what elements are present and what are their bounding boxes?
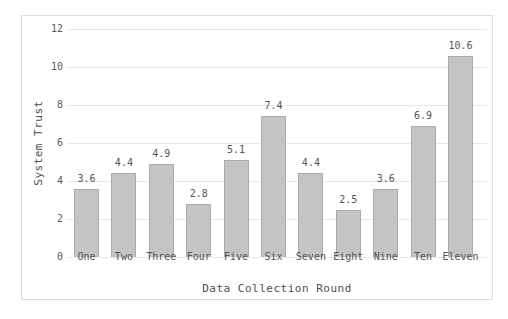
y-tick-label-6: 6 <box>33 136 63 150</box>
y-tick-label-2: 2 <box>33 212 63 226</box>
y-tick-label-8: 8 <box>33 98 63 112</box>
plot-area: 3.64.44.92.85.17.44.42.53.66.910.6 <box>67 29 487 257</box>
value-label-ten: 6.9 <box>401 110 445 122</box>
value-label-one: 3.6 <box>65 173 109 185</box>
value-label-six: 7.4 <box>252 100 296 112</box>
bar-eleven <box>448 56 473 257</box>
x-axis-title: Data Collection Round <box>202 282 352 295</box>
bar-three <box>149 164 174 257</box>
y-tick-label-10: 10 <box>33 60 63 74</box>
bar-five <box>224 160 249 257</box>
value-label-five: 5.1 <box>214 144 258 156</box>
value-label-three: 4.9 <box>139 148 183 160</box>
y-tick-label-12: 12 <box>33 22 63 36</box>
bar-one <box>74 189 99 257</box>
value-label-four: 2.8 <box>177 188 221 200</box>
bar-nine <box>373 189 398 257</box>
x-tick-label-eleven: Eleven <box>431 250 491 263</box>
bar-chart-figure: System Trust 024681012 3.64.44.92.85.17.… <box>21 15 493 300</box>
bar-two <box>111 173 136 257</box>
value-label-eleven: 10.6 <box>439 40 483 52</box>
value-label-eight: 2.5 <box>326 194 370 206</box>
bar-chart-screenshot: System Trust 024681012 3.64.44.92.85.17.… <box>0 0 508 319</box>
bar-seven <box>298 173 323 257</box>
y-tick-label-4: 4 <box>33 174 63 188</box>
value-label-seven: 4.4 <box>289 157 333 169</box>
value-label-nine: 3.6 <box>364 173 408 185</box>
bar-ten <box>411 126 436 257</box>
bar-six <box>261 116 286 257</box>
